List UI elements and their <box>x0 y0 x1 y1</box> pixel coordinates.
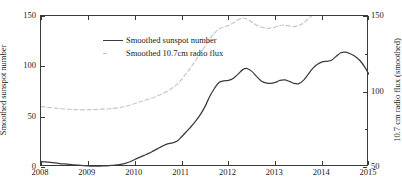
x-tick <box>228 16 229 20</box>
chart-legend: Smoothed sunspot numberSmoothed 10.7cm r… <box>103 35 223 61</box>
solar-cycle-figure: Smoothed sunspot number 050100150 10.7 c… <box>0 0 402 192</box>
x-tick-label: 2011 <box>172 168 189 177</box>
y-tick-label-right: 100 <box>371 86 384 95</box>
x-tick <box>135 16 136 20</box>
x-tick <box>368 16 369 20</box>
x-tick <box>368 161 369 165</box>
y-tick-right <box>363 167 367 168</box>
legend-item: Smoothed sunspot number <box>103 35 223 46</box>
x-tick-label: 2013 <box>266 168 283 177</box>
y-tick-right <box>363 92 367 93</box>
x-tick-label: 2008 <box>32 168 49 177</box>
y-tick-label-left: 150 <box>10 11 36 20</box>
y-axis-right-title: 10.7 cm radio flux (smoothed) <box>392 38 402 142</box>
x-tick <box>135 161 136 165</box>
y-tick-label-left: 50 <box>10 111 36 120</box>
x-tick <box>275 161 276 165</box>
x-tick <box>41 16 42 20</box>
legend-label: Smoothed sunspot number <box>126 36 217 45</box>
x-tick <box>88 161 89 165</box>
y-tick-label-left: 100 <box>10 61 36 70</box>
x-tick <box>322 161 323 165</box>
x-tick <box>88 16 89 20</box>
legend-dashed-line-icon <box>103 50 123 58</box>
legend-item: Smoothed 10.7cm radio flux <box>103 48 223 59</box>
y-tick-left <box>41 167 45 168</box>
x-tick <box>182 16 183 20</box>
y-tick-label-right: 150 <box>371 11 384 20</box>
x-tick-label: 2009 <box>78 168 95 177</box>
x-tick <box>182 161 183 165</box>
x-tick-label: 2012 <box>219 168 236 177</box>
legend-label: Smoothed 10.7cm radio flux <box>126 49 223 58</box>
x-tick-label: 2010 <box>125 168 142 177</box>
y-tick-right-minor <box>365 129 368 130</box>
y-tick-right <box>363 16 367 17</box>
plot-area: Smoothed sunspot numberSmoothed 10.7cm r… <box>40 15 368 166</box>
y-tick-left <box>41 117 45 118</box>
x-tick <box>322 16 323 20</box>
x-tick <box>228 161 229 165</box>
y-tick-right-minor <box>365 54 368 55</box>
legend-solid-line-icon <box>103 37 123 45</box>
x-tick-label: 2015 <box>360 168 377 177</box>
x-tick-label: 2014 <box>313 168 330 177</box>
x-tick <box>41 161 42 165</box>
y-tick-left <box>41 66 45 67</box>
y-axis-left-title: Smoothed sunspot number <box>0 45 8 136</box>
x-tick <box>275 16 276 20</box>
